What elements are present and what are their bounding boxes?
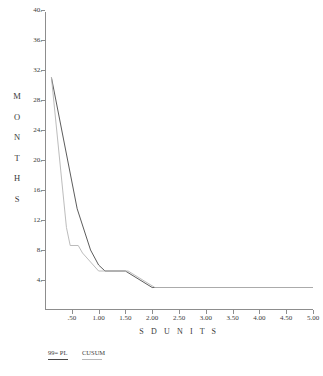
series-line-cusum: [51, 78, 313, 288]
legend-item-cusum: CUSUM: [82, 349, 105, 360]
y-axis-title-letter: H: [14, 168, 20, 189]
y-axis-title-letter: M: [13, 86, 21, 107]
x-tick-label: 4.50: [280, 314, 292, 322]
x-tick-label: 1.50: [119, 314, 131, 322]
y-tick-label: 20.: [33, 156, 42, 164]
y-tick-label: 36.: [33, 36, 42, 44]
plot-area: 4.8.12.16.20.24.28.32.36.40. .501.001.50…: [45, 10, 313, 310]
y-tick-label: 4.: [37, 276, 42, 284]
legend-item-99pl: 99= PL: [48, 349, 68, 360]
y-tick-label: 24.: [33, 126, 42, 134]
x-axis-title: S D U N I T S: [45, 327, 313, 336]
x-tick-label: 2.00: [146, 314, 158, 322]
legend-swatch-cusum: [82, 359, 102, 360]
x-tick-label: 5.00: [307, 314, 319, 322]
y-tick-label: 32.: [33, 66, 42, 74]
x-tick-label: .50: [67, 314, 76, 322]
y-tick-label: 16.: [33, 186, 42, 194]
series-container: [45, 10, 313, 310]
y-axis-title-letter: S: [15, 189, 20, 210]
x-tick-label: 4.00: [253, 314, 265, 322]
legend-label: CUSUM: [82, 349, 105, 357]
y-tick-label: 40.: [33, 6, 42, 14]
y-tick-label: 8.: [37, 246, 42, 254]
legend-swatch-99pl: [48, 359, 68, 360]
y-axis-title: M O N T H S: [8, 86, 26, 209]
y-axis-title-letter: T: [14, 148, 19, 169]
chart-legend: 99= PL CUSUM: [48, 349, 105, 360]
y-axis-title-letter: N: [14, 127, 20, 148]
x-tick-label: 2.50: [173, 314, 185, 322]
y-tick-label: 28.: [33, 96, 42, 104]
series-line-99-pl: [51, 78, 313, 288]
y-tick-label: 12.: [33, 216, 42, 224]
x-tick-label: 3.00: [200, 314, 212, 322]
x-tick-label: 3.50: [226, 314, 238, 322]
y-axis-title-letter: O: [14, 107, 20, 128]
x-tick-label: 1.00: [92, 314, 104, 322]
chart-figure: M O N T H S 4.8.12.16.20.24.28.32.36.40.…: [0, 0, 323, 376]
legend-label: 99= PL: [48, 349, 67, 357]
